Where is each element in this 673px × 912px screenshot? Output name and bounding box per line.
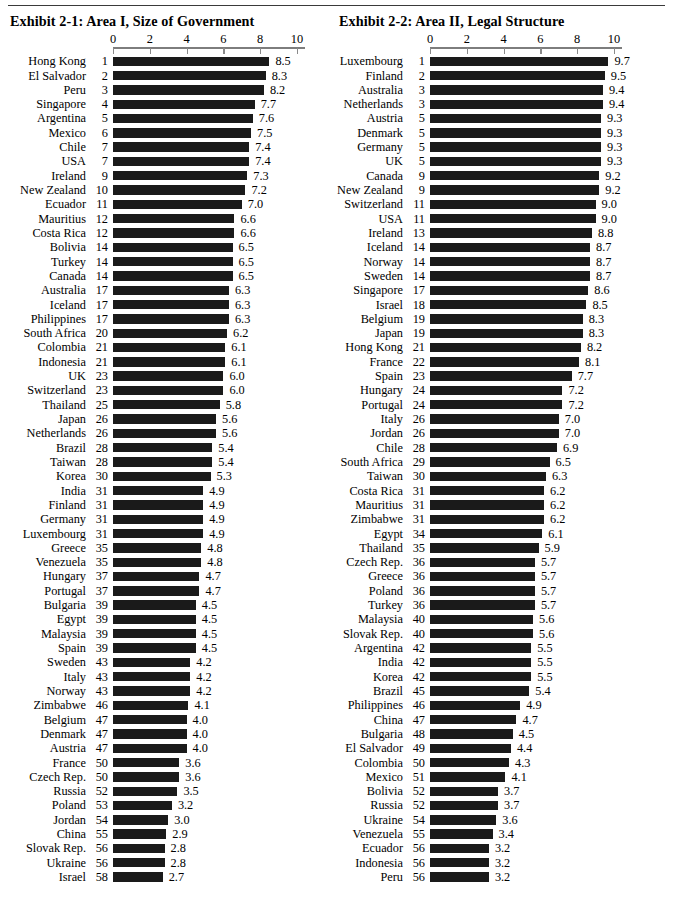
- value-bar: [430, 286, 588, 295]
- value-bar: [430, 300, 586, 309]
- value-bar: [430, 515, 544, 524]
- rank-label: 40: [405, 627, 425, 641]
- value-bar: [113, 457, 212, 466]
- value-bar: [430, 872, 489, 881]
- value-bar: [113, 872, 163, 881]
- country-label: UK: [0, 369, 86, 383]
- country-label: France: [337, 355, 403, 369]
- country-label: Mauritius: [0, 212, 86, 226]
- value-label: 4.3: [515, 756, 530, 770]
- value-bar: [430, 829, 493, 838]
- country-label: Taiwan: [0, 455, 86, 469]
- chart-row: Egypt346.1: [337, 526, 673, 540]
- value-label: 4.0: [193, 727, 208, 741]
- rank-label: 28: [88, 441, 108, 455]
- value-bar: [113, 729, 187, 738]
- rank-label: 12: [88, 212, 108, 226]
- country-label: Ukraine: [0, 856, 86, 870]
- chart-row: Colombia504.3: [337, 755, 673, 769]
- value-bar: [113, 858, 165, 867]
- value-bar: [113, 486, 203, 495]
- rank-label: 14: [88, 240, 108, 254]
- value-bar: [113, 429, 216, 438]
- value-label: 6.0: [229, 383, 244, 397]
- country-label: Canada: [0, 269, 86, 283]
- value-bar: [430, 801, 498, 810]
- rank-label: 50: [405, 756, 425, 770]
- value-bar: [113, 844, 165, 853]
- value-bar: [113, 829, 166, 838]
- rank-label: 11: [405, 212, 425, 226]
- value-label: 3.2: [178, 798, 193, 812]
- value-bar: [113, 615, 196, 624]
- value-label: 8.3: [272, 69, 287, 83]
- value-bar: [430, 715, 516, 724]
- country-label: Israel: [337, 298, 403, 312]
- chart-row: Japan265.6: [0, 412, 336, 426]
- value-bar: [113, 386, 223, 395]
- country-label: Taiwan: [337, 469, 403, 483]
- country-label: Slovak Rep.: [0, 841, 86, 855]
- chart-row: Italy267.0: [337, 412, 673, 426]
- value-bar: [430, 414, 559, 423]
- value-bar: [113, 643, 196, 652]
- chart-row: Hungary374.7: [0, 569, 336, 583]
- chart-row: Russia523.7: [337, 798, 673, 812]
- rank-label: 13: [405, 226, 425, 240]
- country-label: Slovak Rep.: [337, 627, 403, 641]
- value-label: 3.2: [495, 856, 510, 870]
- chart-row: Spain394.5: [0, 641, 336, 655]
- value-bar: [113, 600, 196, 609]
- value-bar: [430, 357, 579, 366]
- chart-row: Indonesia563.2: [337, 856, 673, 870]
- value-label: 6.6: [240, 212, 255, 226]
- rank-label: 31: [88, 512, 108, 526]
- value-label: 4.7: [522, 713, 537, 727]
- country-label: South Africa: [337, 455, 403, 469]
- chart-row: Taiwan306.3: [337, 469, 673, 483]
- value-bar: [113, 701, 188, 710]
- value-bar: [430, 672, 531, 681]
- value-label: 5.9: [545, 541, 560, 555]
- rank-label: 31: [405, 512, 425, 526]
- value-label: 4.5: [202, 598, 217, 612]
- x-axis-tick-label: 10: [291, 32, 303, 47]
- country-label: Hungary: [0, 569, 86, 583]
- rank-label: 42: [405, 670, 425, 684]
- value-label: 9.5: [611, 69, 626, 83]
- value-label: 5.6: [539, 627, 554, 641]
- value-label: 4.8: [207, 541, 222, 555]
- chart-row: Brazil455.4: [337, 684, 673, 698]
- country-label: Brazil: [337, 684, 403, 698]
- value-bar: [113, 686, 190, 695]
- value-bar: [430, 472, 546, 481]
- chart-row: Singapore47.7: [0, 97, 336, 111]
- rank-label: 47: [88, 713, 108, 727]
- chart-row: Israel582.7: [0, 870, 336, 884]
- value-bar: [430, 744, 511, 753]
- chart-row: Colombia216.1: [0, 340, 336, 354]
- rank-label: 26: [405, 412, 425, 426]
- rank-label: 5: [405, 126, 425, 140]
- chart-row: Zimbabwe464.1: [0, 698, 336, 712]
- chart-row: Germany59.3: [337, 140, 673, 154]
- exhibit-panel-left: Exhibit 2-1: Area I, Size of Government …: [0, 0, 336, 912]
- x-axis-tick-label: 8: [574, 32, 580, 47]
- country-label: El Salvador: [337, 741, 403, 755]
- value-bar: [113, 329, 227, 338]
- chart-row: Philippines464.9: [337, 698, 673, 712]
- chart-row: Luxembourg19.7: [337, 54, 673, 68]
- rank-label: 39: [88, 627, 108, 641]
- country-label: Costa Rica: [337, 484, 403, 498]
- value-bar: [113, 128, 251, 137]
- rank-label: 1: [88, 54, 108, 68]
- value-label: 4.0: [193, 741, 208, 755]
- country-label: Bolivia: [0, 240, 86, 254]
- chart-row: Singapore178.6: [337, 283, 673, 297]
- rank-label: 47: [88, 727, 108, 741]
- value-label: 4.8: [207, 555, 222, 569]
- value-bar: [113, 271, 233, 280]
- value-label: 9.4: [609, 83, 624, 97]
- rank-label: 35: [405, 541, 425, 555]
- value-label: 3.6: [185, 756, 200, 770]
